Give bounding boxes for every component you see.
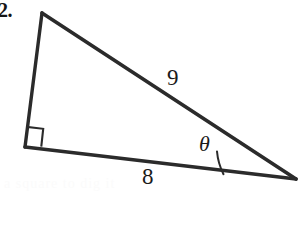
theta-angle-label: θ [199,133,210,155]
hypotenuse-label: 9 [167,66,179,89]
base-label: 8 [142,165,154,188]
ghost-bleedthrough-text: a square to dig it [4,176,115,192]
right-angle-marker [28,127,43,146]
